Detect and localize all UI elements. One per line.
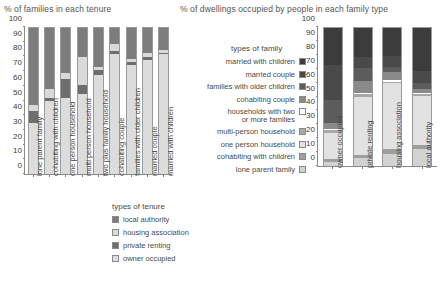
legend-item-label: private renting [123, 242, 171, 250]
legend-item-label: married couple [245, 71, 295, 79]
legend-item-label: multi-person household [217, 128, 295, 136]
legend-swatch-icon [299, 108, 306, 115]
bar-segment[interactable] [110, 44, 119, 51]
x-axis-tick-label: multi person household [85, 98, 93, 176]
legend-item-label: lone parent family [236, 166, 295, 174]
bar-segment[interactable] [354, 68, 372, 80]
legend-item-family[interactable]: households with twoor more families [227, 108, 306, 124]
bar-segment[interactable] [78, 85, 87, 94]
legend-swatch-icon [299, 166, 306, 173]
legend-item-label: owner occupied [123, 255, 176, 263]
bar-segment[interactable] [383, 56, 401, 67]
x-axis-tick-label: married with children [167, 107, 175, 176]
legend-item-family[interactable]: lone parent family [236, 166, 306, 174]
legend-item-label: housing association [123, 229, 189, 237]
y-axis-tick-label: 0 [18, 162, 25, 170]
x-axis-tick-mark [49, 174, 50, 177]
legend-item-family[interactable]: families with older children [207, 83, 306, 91]
y-axis-tick-label: 100 [302, 15, 318, 23]
right-legend-title: types of family [231, 44, 282, 53]
bar-segment[interactable] [354, 57, 372, 68]
x-axis-tick-label: housing association [395, 102, 403, 168]
bar-segment[interactable] [413, 71, 431, 83]
legend-swatch-icon [299, 71, 306, 78]
bar-segment[interactable] [324, 28, 342, 65]
legend-item-label: cohabiting couple [237, 96, 295, 104]
bar-segment[interactable] [383, 72, 401, 80]
x-axis-tick-label: cohabiting couple [118, 118, 126, 176]
legend-item-tenure[interactable]: owner occupied [112, 255, 176, 263]
bar-segment[interactable] [45, 89, 54, 98]
bar-segment[interactable] [110, 28, 119, 44]
y-axis-tick-label: 10 [306, 140, 318, 148]
legend-swatch-icon [112, 255, 119, 262]
y-axis-tick-label: 90 [13, 30, 25, 38]
legend-swatch-icon [299, 128, 306, 135]
y-axis-tick-mark [316, 109, 318, 110]
y-axis-tick-mark [23, 55, 25, 56]
left-legend-title: types of tenure [112, 202, 165, 211]
y-axis-tick-label: 100 [9, 15, 25, 23]
bar-segment[interactable] [61, 79, 70, 98]
bar-segment[interactable] [324, 65, 342, 100]
legend-item-family[interactable]: married couple [245, 71, 306, 79]
x-axis-tick-mark [163, 174, 164, 177]
x-axis-tick-label: one person household [69, 102, 77, 176]
x-axis-tick-mark [422, 166, 423, 169]
x-axis-tick-label: cohabiting with children [52, 98, 60, 176]
y-axis-tick-label: 40 [306, 98, 318, 106]
y-axis-tick-mark [316, 68, 318, 69]
bar-segment[interactable] [159, 28, 168, 50]
bar-segment[interactable] [61, 28, 70, 73]
bar-segment[interactable] [78, 57, 87, 85]
bar-segment[interactable] [143, 28, 152, 53]
legend-item-family[interactable]: one person household [221, 141, 306, 149]
figure-root: % of families in each tenure % of dwelli… [0, 0, 448, 281]
legend-item-family[interactable]: cohabiting couple [237, 96, 306, 104]
x-axis-tick-mark [82, 174, 83, 177]
y-axis-tick-label: 70 [306, 57, 318, 65]
y-axis-tick-label: 80 [13, 44, 25, 52]
left-chart-plot-area: 0102030405060708090100lone parent family… [24, 27, 172, 175]
y-axis-tick-mark [316, 151, 318, 152]
y-axis-tick-mark [316, 96, 318, 97]
legend-swatch-icon [299, 96, 306, 103]
legend-item-family[interactable]: married with children [226, 58, 306, 66]
legend-swatch-icon [112, 229, 119, 236]
legend-item-tenure[interactable]: housing association [112, 229, 189, 237]
x-axis-tick-mark [131, 174, 132, 177]
y-axis-tick-mark [23, 114, 25, 115]
legend-item-tenure[interactable]: private renting [112, 242, 171, 250]
x-axis-tick-mark [147, 174, 148, 177]
legend-item-label: married with children [226, 58, 295, 66]
x-axis-tick-mark [33, 174, 34, 177]
legend-swatch-icon [299, 83, 306, 90]
bar-segment[interactable] [78, 28, 87, 57]
bar-segment[interactable] [29, 28, 38, 105]
bar-segment[interactable] [354, 81, 372, 93]
legend-item-family[interactable]: cohabiting with children [217, 153, 306, 161]
y-axis-tick-label: 90 [306, 29, 318, 37]
y-axis-tick-mark [23, 158, 25, 159]
right-chart-plot-area: 0102030405060708090100owner occupiedpriv… [317, 27, 437, 167]
bar-segment[interactable] [383, 28, 401, 56]
legend-item-tenure[interactable]: local authority [112, 216, 169, 224]
y-axis-tick-mark [316, 54, 318, 55]
x-axis-tick-label: private renting [366, 120, 374, 168]
x-axis-tick-label: owner occupied [336, 115, 344, 168]
bar-segment[interactable] [45, 28, 54, 89]
bar-segment[interactable] [413, 28, 431, 71]
y-axis-tick-label: 20 [306, 126, 318, 134]
legend-swatch-icon [299, 153, 306, 160]
y-axis-tick-label: 40 [13, 103, 25, 111]
y-axis-tick-label: 50 [13, 89, 25, 97]
x-axis-tick-mark [332, 166, 333, 169]
bar-segment[interactable] [354, 28, 372, 57]
x-axis-tick-label: married couple [151, 126, 159, 176]
y-axis-tick-mark [23, 100, 25, 101]
legend-item-family[interactable]: multi-person household [217, 128, 306, 136]
x-axis-tick-label: lone parent family [36, 117, 44, 176]
bar-segment[interactable] [127, 28, 136, 59]
y-axis-tick-mark [23, 41, 25, 42]
bar-segment[interactable] [94, 28, 103, 67]
